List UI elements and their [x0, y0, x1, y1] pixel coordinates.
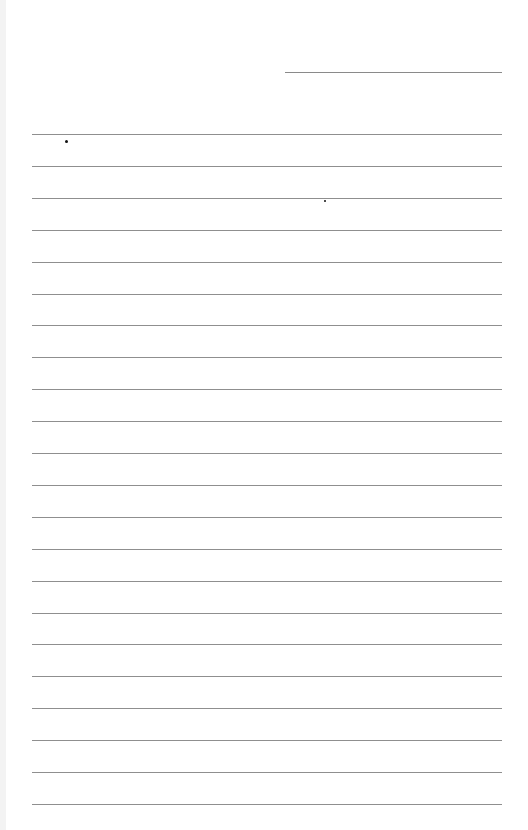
ruled-line [32, 772, 502, 773]
ruled-line [32, 389, 502, 390]
ruled-line [32, 581, 502, 582]
ruled-line [32, 453, 502, 454]
ink-dot [65, 140, 68, 143]
ruled-line [32, 357, 502, 358]
ruled-line [32, 230, 502, 231]
ruled-line [32, 262, 502, 263]
ruled-line [32, 421, 502, 422]
ruled-line [32, 166, 502, 167]
ruled-line [32, 134, 502, 135]
ruled-line [32, 676, 502, 677]
ruled-line [32, 804, 502, 805]
ruled-line [32, 708, 502, 709]
ruled-line [32, 740, 502, 741]
ink-dot [324, 200, 326, 202]
header-name-line [285, 72, 502, 73]
ruled-line [32, 644, 502, 645]
ruled-line [32, 325, 502, 326]
ruled-line [32, 485, 502, 486]
ruled-line [32, 613, 502, 614]
ruled-line [32, 549, 502, 550]
ruled-line [32, 198, 502, 199]
ruled-line [32, 517, 502, 518]
page-edge-shadow [0, 0, 6, 830]
ruled-line [32, 294, 502, 295]
